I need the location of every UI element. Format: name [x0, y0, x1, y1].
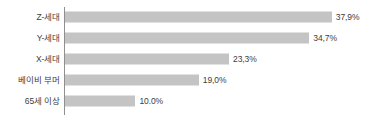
category-label: 베이비 부머 [18, 76, 60, 85]
category-label: X-세대 [36, 55, 60, 64]
bar [65, 33, 309, 44]
chart-row: 베이비 부머 19,0% [0, 70, 372, 90]
plot-area: Z-세대 37,9% Y-세대 34,7% X-세대 23,3% 베이비 부머 … [0, 0, 372, 121]
bar [65, 54, 229, 65]
value-label: 37,9% [336, 13, 360, 22]
chart-row: 65세 이상 10.0% [0, 91, 372, 111]
category-label: Z-세대 [36, 13, 60, 22]
category-label: Y-세대 [37, 34, 60, 43]
chart-row: X-세대 23,3% [0, 49, 372, 69]
value-label: 10.0% [139, 97, 163, 106]
value-label: 23,3% [233, 55, 257, 64]
value-label: 34,7% [313, 34, 337, 43]
chart-row: Z-세대 37,9% [0, 7, 372, 27]
bar [65, 12, 332, 23]
chart-row: Y-세대 34,7% [0, 28, 372, 48]
horizontal-bar-chart: Z-세대 37,9% Y-세대 34,7% X-세대 23,3% 베이비 부머 … [0, 0, 372, 121]
bar [65, 96, 135, 107]
category-label: 65세 이상 [25, 97, 60, 106]
bar [65, 75, 199, 86]
value-label: 19,0% [203, 76, 227, 85]
